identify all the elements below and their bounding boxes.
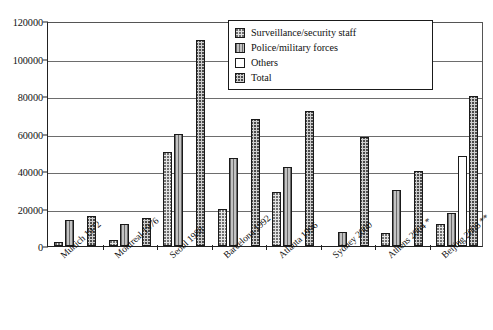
bar bbox=[436, 224, 445, 246]
bar bbox=[196, 40, 205, 246]
bar bbox=[174, 134, 183, 247]
bar bbox=[163, 152, 172, 246]
bar bbox=[283, 167, 292, 246]
bar-group bbox=[48, 23, 103, 246]
legend-label: Police/military forces bbox=[251, 42, 338, 53]
x-axis-tick-mark bbox=[103, 245, 104, 250]
y-axis-tick-mark bbox=[43, 59, 48, 60]
y-axis-tick-mark bbox=[43, 97, 48, 98]
bar bbox=[54, 242, 63, 246]
legend-label: Surveillance/security staff bbox=[251, 27, 356, 38]
legend-item: Total bbox=[235, 70, 424, 85]
x-axis-tick-mark bbox=[321, 245, 322, 250]
y-axis-tick-mark bbox=[43, 209, 48, 210]
legend-item: Others bbox=[235, 55, 424, 70]
legend-label: Others bbox=[251, 57, 278, 68]
y-axis-tick-mark bbox=[43, 134, 48, 135]
legend-label: Total bbox=[251, 72, 272, 83]
legend-swatch-surveillance-icon bbox=[235, 28, 245, 38]
legend-item: Police/military forces bbox=[235, 40, 424, 55]
legend-item: Surveillance/security staff bbox=[235, 25, 424, 40]
bar-group bbox=[103, 23, 158, 246]
legend-swatch-total-icon bbox=[235, 73, 245, 83]
bar-group bbox=[430, 23, 485, 246]
bar bbox=[381, 233, 390, 246]
y-axis-tick-label: 20000 bbox=[18, 204, 43, 215]
y-axis-labels: 020000400006000080000100000120000 bbox=[0, 22, 43, 247]
y-axis-tick-label: 80000 bbox=[18, 92, 43, 103]
x-axis-tick-mark bbox=[266, 245, 267, 250]
x-axis-tick-mark bbox=[430, 245, 431, 250]
y-axis-tick-label: 100000 bbox=[13, 54, 43, 65]
y-axis-tick-mark bbox=[43, 172, 48, 173]
x-axis-tick-mark bbox=[212, 245, 213, 250]
bar bbox=[272, 192, 281, 246]
legend-swatch-others-icon bbox=[235, 58, 245, 68]
y-axis-tick-mark bbox=[43, 247, 48, 248]
bar-group bbox=[157, 23, 212, 246]
y-axis-tick-mark bbox=[43, 22, 48, 23]
x-axis-tick-mark bbox=[157, 245, 158, 250]
bar bbox=[229, 158, 238, 246]
x-axis-tick-mark bbox=[375, 245, 376, 250]
bar bbox=[218, 209, 227, 247]
y-axis-tick-label: 60000 bbox=[18, 129, 43, 140]
legend-swatch-police-icon bbox=[235, 43, 245, 53]
y-axis-tick-label: 40000 bbox=[18, 167, 43, 178]
bar bbox=[109, 240, 118, 246]
chart-legend: Surveillance/security staff Police/milit… bbox=[228, 20, 433, 90]
y-axis-tick-label: 120000 bbox=[13, 17, 43, 28]
bar-chart: 020000400006000080000100000120000 Munich… bbox=[0, 0, 493, 330]
